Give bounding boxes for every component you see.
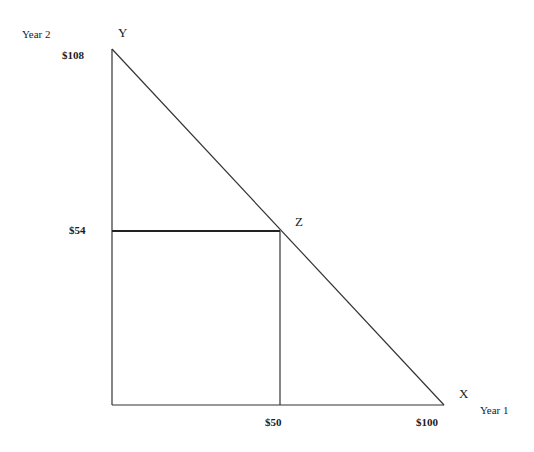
point-z-label: Z xyxy=(295,214,303,230)
budget-line xyxy=(112,49,444,405)
point-y-label: Y xyxy=(118,25,127,41)
x-tick-50: $50 xyxy=(265,416,282,428)
x-tick-100: $100 xyxy=(416,416,438,428)
point-x-label: X xyxy=(459,386,468,402)
y-tick-108: $108 xyxy=(62,49,84,61)
x-axis-label: Year 1 xyxy=(480,404,509,416)
y-tick-54: $54 xyxy=(69,224,86,236)
y-axis-label: Year 2 xyxy=(22,28,51,40)
